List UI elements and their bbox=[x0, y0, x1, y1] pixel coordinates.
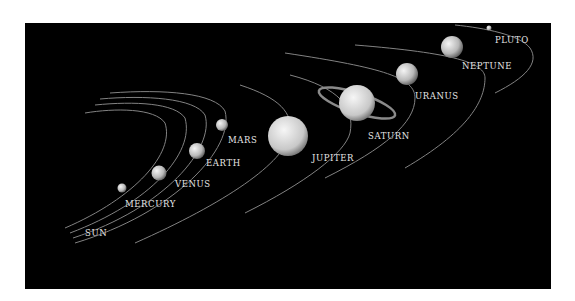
label-neptune: NEPTUNE bbox=[462, 61, 512, 71]
earth bbox=[189, 143, 205, 159]
saturn bbox=[316, 81, 398, 125]
mercury bbox=[118, 184, 127, 193]
jupiter bbox=[268, 116, 308, 156]
label-pluto: PLUTO bbox=[495, 35, 529, 45]
sun bbox=[25, 23, 155, 289]
label-venus: VENUS bbox=[175, 179, 211, 189]
label-mars: MARS bbox=[228, 135, 257, 145]
label-sun: SUN bbox=[85, 228, 107, 238]
label-earth: EARTH bbox=[206, 158, 241, 168]
neptune bbox=[441, 36, 463, 58]
label-mercury: MERCURY bbox=[125, 199, 176, 209]
venus bbox=[152, 166, 167, 181]
mars bbox=[216, 119, 228, 131]
solar-system-diagram: SUN MERCURY VENUS EARTH MARS JUPITER SAT… bbox=[25, 23, 551, 289]
pluto bbox=[487, 26, 492, 31]
uranus bbox=[396, 63, 418, 85]
label-saturn: SATURN bbox=[368, 131, 410, 141]
label-uranus: URANUS bbox=[415, 91, 459, 101]
label-jupiter: JUPITER bbox=[312, 153, 354, 163]
